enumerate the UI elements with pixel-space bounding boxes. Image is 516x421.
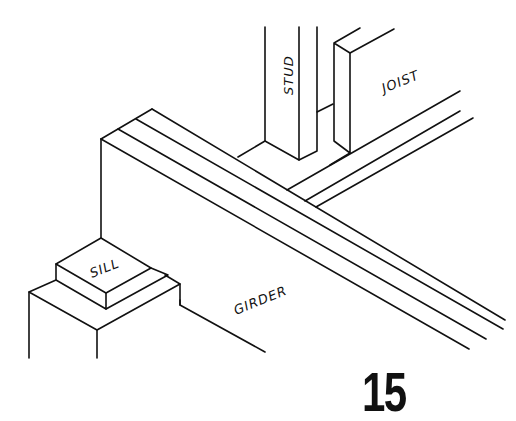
sill (29, 238, 180, 358)
joist (287, 28, 473, 207)
framing-drawing: STUD JOIST SILL GIRDER (0, 0, 516, 421)
sill-label: SILL (88, 255, 122, 280)
girder (101, 109, 505, 352)
page-number: 15 (362, 364, 406, 420)
joist-label: JOIST (377, 67, 422, 97)
girder-label: GIRDER (232, 283, 290, 318)
stud-label: STUD (281, 55, 296, 95)
framing-diagram: STUD JOIST SILL GIRDER 15 (0, 0, 516, 421)
